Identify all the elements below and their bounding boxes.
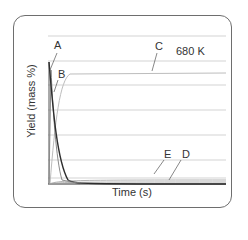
x-axis-label: Time (s) [112,186,152,198]
series-a [49,62,226,184]
series-label-c: C [155,40,163,52]
series-label-d: D [182,148,190,160]
gridlines [48,36,226,178]
series-label-e: E [164,148,171,160]
series-label-b: B [58,68,65,80]
temperature-annotation: 680 K [176,45,205,57]
series-label-a: A [54,39,61,51]
series-c [50,73,226,184]
series-b [49,70,80,184]
y-axis-label: Yield (mass %) [25,56,37,146]
leader-lines [50,53,181,180]
